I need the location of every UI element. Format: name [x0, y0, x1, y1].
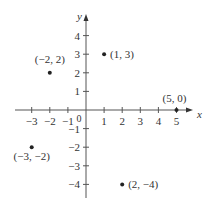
data-point-label: (−3, −2) — [14, 150, 51, 163]
y-tick-label: −4 — [68, 178, 80, 190]
data-point — [120, 182, 124, 186]
x-tick-label: 1 — [101, 115, 107, 127]
y-tick-label: −2 — [68, 141, 80, 153]
y-tick-label: 3 — [75, 48, 81, 60]
coordinate-plane: xy−3−2−1123450−4−3−2−11234(1, 3)(−2, 2)(… — [0, 0, 207, 210]
x-axis-label: x — [196, 108, 202, 120]
x-tick-label: 3 — [138, 115, 144, 127]
scatter-plot: xy−3−2−1123450−4−3−2−11234(1, 3)(−2, 2)(… — [0, 0, 207, 210]
x-tick-label: 5 — [174, 115, 180, 127]
data-point — [48, 71, 52, 75]
x-tick-label: 2 — [119, 115, 125, 127]
y-tick-label: 1 — [75, 85, 81, 97]
y-axis-label: y — [76, 10, 82, 22]
y-axis-arrow-icon — [84, 14, 89, 21]
data-point-label: (2, −4) — [128, 178, 158, 191]
y-tick-label: 2 — [75, 67, 81, 79]
y-tick-label: 4 — [75, 30, 81, 42]
x-tick-label: −3 — [26, 115, 38, 127]
y-tick-label: −3 — [68, 160, 80, 172]
data-point — [30, 145, 34, 149]
data-point-label: (5, 0) — [163, 92, 187, 105]
data-point-label: (1, 3) — [110, 48, 134, 61]
data-point — [175, 108, 179, 112]
y-tick-label: −1 — [68, 123, 80, 135]
data-point-label: (−2, 2) — [35, 53, 65, 66]
x-tick-label: −2 — [44, 115, 56, 127]
data-point — [102, 52, 106, 56]
x-tick-label: 4 — [156, 115, 162, 127]
x-axis-arrow-icon — [186, 108, 193, 113]
